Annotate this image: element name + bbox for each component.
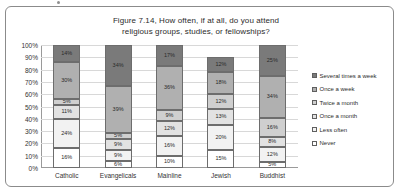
- chart-title: Figure 7.14, How often, if at all, do yo…: [46, 15, 346, 37]
- bar-segment[interactable]: 34%: [259, 76, 286, 118]
- bar-segment[interactable]: 34%: [105, 45, 132, 86]
- y-axis-tick: 40%: [6, 115, 38, 122]
- bar-segment[interactable]: 17%: [156, 45, 183, 66]
- bar-segment-label: 30%: [61, 78, 72, 84]
- y-axis-tick: 30%: [6, 128, 38, 135]
- bar-segment[interactable]: 25%: [259, 45, 286, 76]
- legend-swatch-icon: [312, 73, 317, 78]
- bar-segment[interactable]: 9%: [105, 150, 132, 161]
- legend-item[interactable]: Less often: [312, 123, 390, 137]
- bar-stack-catholic[interactable]: 16%24%11%5%30%14%: [53, 45, 80, 168]
- plot-area: 16%24%11%5%30%14%6%9%9%5%39%34%10%16%12%…: [41, 45, 298, 168]
- bar-segment[interactable]: 6%: [105, 161, 132, 168]
- legend-swatch-icon: [312, 87, 317, 92]
- bar-segment[interactable]: 5%: [53, 99, 80, 105]
- bar-segment[interactable]: 16%: [156, 136, 183, 156]
- legend-item[interactable]: Twice a month: [312, 96, 390, 110]
- y-axis-tick: 20%: [6, 140, 38, 147]
- bar-segment[interactable]: 20%: [207, 125, 234, 150]
- chart-title-line-2: religious groups, studies, or fellowship…: [46, 26, 346, 37]
- bar-segment-label: 12%: [215, 62, 226, 68]
- y-axis-tick: 90%: [6, 54, 38, 61]
- bar-segment-label: 15%: [215, 156, 226, 162]
- bar-segment[interactable]: 12%: [259, 147, 286, 162]
- bar-segment[interactable]: 36%: [156, 66, 183, 110]
- y-axis-tick: 60%: [6, 91, 38, 98]
- bar-segment-label: 34%: [113, 63, 124, 69]
- y-axis-tick: 100%: [6, 42, 38, 49]
- bar-segment[interactable]: 9%: [105, 139, 132, 150]
- bar-segment[interactable]: 24%: [53, 119, 80, 149]
- bar-segment-label: 12%: [267, 152, 278, 158]
- bar-group: 16%24%11%5%30%14%: [53, 45, 80, 168]
- bar-group: 6%9%9%5%39%34%: [105, 45, 132, 168]
- bar-stack-jewish[interactable]: 15%20%13%12%18%12%: [207, 45, 234, 168]
- bar-segment[interactable]: 12%: [207, 57, 234, 72]
- y-axis-tick: 50%: [6, 103, 38, 110]
- bar-stack-evangelicals[interactable]: 6%9%9%5%39%34%: [105, 45, 132, 168]
- y-axis-tick: 0%: [6, 165, 38, 172]
- bar-stack-mainline[interactable]: 10%16%12%9%36%17%: [156, 45, 183, 168]
- bar-segment[interactable]: 16%: [53, 148, 80, 168]
- scan-speck: [57, 1, 60, 4]
- y-axis: 0%10%20%30%40%50%60%70%80%90%100%: [3, 45, 38, 168]
- bar-segment-label: 20%: [215, 135, 226, 141]
- bar-segment-label: 5%: [63, 99, 71, 105]
- y-axis-tick: 10%: [6, 152, 38, 159]
- bar-segment-label: 12%: [215, 99, 226, 105]
- bar-segment[interactable]: 39%: [105, 86, 132, 133]
- bar-segment-label: 8%: [268, 139, 276, 145]
- bar-segment[interactable]: 13%: [207, 109, 234, 125]
- bar-segment-label: 14%: [61, 51, 72, 57]
- legend-swatch-icon: [312, 100, 317, 105]
- bar-segment-label: 11%: [61, 109, 72, 115]
- bar-stack-buddhist[interactable]: 5%12%8%16%34%25%: [259, 45, 286, 168]
- bar-segment-label: 10%: [164, 159, 175, 165]
- bar-segment-label: 6%: [114, 162, 122, 168]
- x-axis-label-mainline: Mainline: [144, 172, 195, 179]
- bar-segment[interactable]: 15%: [207, 150, 234, 168]
- bar-segment-label: 16%: [267, 125, 278, 131]
- legend-swatch-icon: [312, 114, 317, 119]
- bar-segment-label: 9%: [114, 142, 122, 148]
- legend-label: Once a month: [320, 113, 358, 119]
- bar-segment[interactable]: 30%: [53, 62, 80, 99]
- legend-item[interactable]: Never: [312, 137, 390, 151]
- bar-segment[interactable]: 12%: [156, 121, 183, 136]
- bar-segment[interactable]: 11%: [53, 105, 80, 119]
- bar-segment-label: 9%: [114, 153, 122, 159]
- legend-item[interactable]: Once a month: [312, 110, 390, 124]
- x-axis-label-catholic: Catholic: [41, 172, 92, 179]
- legend-swatch-icon: [312, 127, 317, 132]
- bar-segment-label: 16%: [164, 143, 175, 149]
- bar-segment[interactable]: 5%: [105, 133, 132, 139]
- bar-segment[interactable]: 16%: [259, 118, 286, 138]
- bar-segment[interactable]: 18%: [207, 72, 234, 94]
- bar-segment[interactable]: 14%: [53, 45, 80, 62]
- bar-segment-label: 25%: [267, 58, 278, 64]
- legend-item[interactable]: Several times a week: [312, 69, 390, 83]
- bar-segment[interactable]: 8%: [259, 137, 286, 147]
- legend-label: Several times a week: [320, 73, 377, 79]
- bar-segment-label: 17%: [164, 53, 175, 59]
- bar-group: 5%12%8%16%34%25%: [259, 45, 286, 168]
- legend-label: Once a week: [320, 86, 355, 92]
- bar-segment[interactable]: 12%: [207, 94, 234, 109]
- bar-segment-label: 13%: [215, 114, 226, 120]
- bar-group: 10%16%12%9%36%17%: [156, 45, 183, 168]
- bar-segment-label: 18%: [215, 80, 226, 86]
- bar-segment-label: 5%: [268, 162, 276, 168]
- bar-segment[interactable]: 5%: [259, 162, 286, 168]
- bar-segment-label: 9%: [166, 113, 174, 119]
- bar-segment-label: 5%: [114, 133, 122, 139]
- x-axis-label-evangelicals: Evangelicals: [92, 172, 143, 179]
- y-axis-tick: 80%: [6, 66, 38, 73]
- bar-segment[interactable]: 9%: [156, 110, 183, 121]
- bar-segment-label: 24%: [61, 131, 72, 137]
- bar-segment[interactable]: 10%: [156, 156, 183, 168]
- legend-item[interactable]: Once a week: [312, 83, 390, 97]
- bar-segment-label: 12%: [164, 126, 175, 132]
- bar-group: 15%20%13%12%18%12%: [207, 45, 234, 168]
- chart-title-line-1: Figure 7.14, How often, if at all, do yo…: [46, 15, 346, 26]
- chart-legend: Several times a weekOnce a weekTwice a m…: [312, 69, 390, 150]
